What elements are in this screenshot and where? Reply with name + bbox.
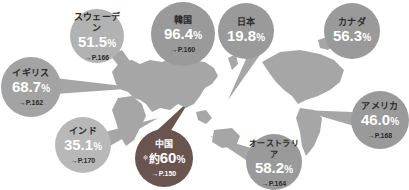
north-america-shape bbox=[262, 50, 344, 104]
country-value: 46.0% bbox=[361, 112, 399, 130]
southeast-asia-shape bbox=[196, 110, 212, 124]
page-reference: →P.166 bbox=[85, 54, 109, 61]
bubble-sweden: スウェーデン 51.5% →P.166 bbox=[70, 9, 124, 63]
page-reference: →P.162 bbox=[19, 99, 43, 106]
page-reference: →P.150 bbox=[152, 170, 176, 177]
country-value: 96.4% bbox=[164, 26, 202, 44]
bubble-canada: カナダ 56.3% bbox=[324, 3, 380, 59]
country-value: 51.5% bbox=[78, 34, 116, 52]
country-value: 35.1% bbox=[64, 137, 102, 155]
country-value: 19.8% bbox=[227, 28, 265, 46]
country-value: 68.7% bbox=[12, 79, 50, 97]
world-map-infographic: スウェーデン 51.5% →P.166 韓国 96.4% →P.160 日本 1… bbox=[0, 0, 408, 185]
note-mark: ※ bbox=[143, 155, 148, 161]
bubble-india: インド 35.1% →P.170 bbox=[55, 117, 111, 173]
bubble-usa: アメリカ 46.0% →P.168 bbox=[351, 91, 409, 149]
page-reference: →P.164 bbox=[262, 180, 286, 187]
page-reference: →P.168 bbox=[368, 132, 392, 139]
country-value: ※約60% bbox=[143, 150, 186, 168]
australia-shape bbox=[212, 128, 240, 148]
bubble-korea: 韓国 96.4% →P.160 bbox=[151, 2, 215, 66]
page-reference: →P.170 bbox=[71, 157, 95, 164]
bubble-china: 中国 ※約60% →P.150 bbox=[135, 129, 193, 187]
country-value: 58.2% bbox=[255, 160, 293, 178]
country-name: スウェーデン bbox=[70, 12, 124, 34]
country-value: 56.3% bbox=[333, 28, 371, 46]
page-reference: →P.160 bbox=[171, 46, 195, 53]
bubble-uk: イギリス 68.7% →P.162 bbox=[1, 57, 61, 117]
bubble-japan: 日本 19.8% bbox=[218, 3, 274, 59]
bubble-australia: オーストラリア 58.2% →P.164 bbox=[246, 134, 302, 190]
country-name: オーストラリア bbox=[246, 138, 302, 160]
